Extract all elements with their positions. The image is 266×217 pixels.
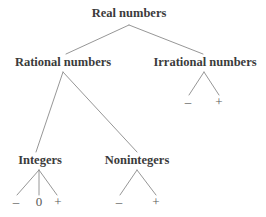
edge-rational-to-integers	[36, 72, 63, 152]
edge-nonintegers-to-minus	[120, 170, 137, 195]
sign-integers-minus: –	[13, 195, 20, 208]
node-nonintegers: Nonintegers	[105, 154, 170, 167]
edge-real-to-rational	[66, 25, 129, 54]
sign-nonintegers-plus: +	[152, 195, 159, 208]
node-integers: Integers	[18, 154, 62, 167]
sign-integers-zero: 0	[36, 195, 43, 208]
real-numbers-tree-diagram: Real numbers Rational numbers Irrational…	[0, 0, 266, 217]
sign-nonintegers-minus: –	[116, 195, 123, 208]
edge-irrational-to-plus	[204, 72, 219, 95]
sign-irrational-minus: –	[185, 95, 192, 108]
edge-irrational-to-minus	[189, 72, 204, 95]
edge-real-to-irrational	[129, 25, 203, 54]
sign-integers-plus: +	[54, 195, 61, 208]
node-real-numbers: Real numbers	[92, 7, 167, 20]
sign-irrational-plus: +	[215, 95, 222, 108]
edge-rational-to-nonintegers	[63, 72, 137, 152]
node-rational-numbers: Rational numbers	[15, 56, 111, 69]
edge-nonintegers-to-plus	[137, 170, 156, 195]
edge-integers-to-plus	[39, 170, 57, 195]
tree-edges-layer	[0, 0, 266, 217]
node-irrational-numbers: Irrational numbers	[153, 56, 256, 69]
edge-integers-to-minus	[17, 170, 39, 195]
